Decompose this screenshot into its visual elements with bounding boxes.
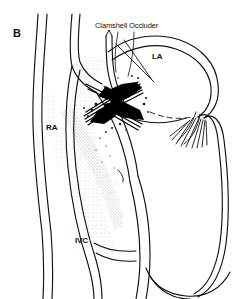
- clamshell-occluder-callout-label: Clamshell Occluder: [95, 22, 158, 30]
- right-atrium-label: RA: [46, 124, 57, 132]
- left-atrium-label: LA: [152, 53, 162, 61]
- cardiac-anatomy-illustration: [0, 0, 251, 299]
- inferior-vena-cava-label: IVC: [75, 237, 88, 245]
- panel-letter-label: B: [13, 28, 21, 39]
- clamshell-occluder-figure: B Clamshell Occluder LA RA IVC: [0, 0, 251, 299]
